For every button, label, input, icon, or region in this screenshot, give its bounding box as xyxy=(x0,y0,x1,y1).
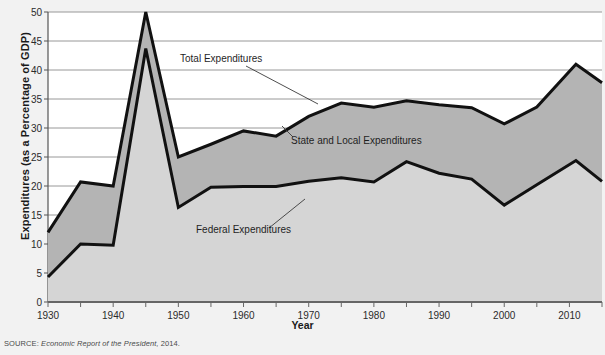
annotation-label-federal: Federal Expenditures xyxy=(196,224,291,235)
x-tick-label: 1990 xyxy=(428,310,451,321)
source-body: Economic Report of the President, xyxy=(41,339,159,348)
y-tick-label: 15 xyxy=(31,210,43,221)
source-label: SOURCE: xyxy=(4,339,39,348)
y-tick-label: 25 xyxy=(31,152,43,163)
x-axis: 193019401950196019701980199020002010 xyxy=(37,302,602,321)
y-tick-label: 0 xyxy=(36,297,42,308)
x-tick-label: 1930 xyxy=(37,310,60,321)
y-tick-label: 10 xyxy=(31,239,43,250)
annotation-label-state_local: State and Local Expenditures xyxy=(291,135,422,146)
x-tick-label: 2000 xyxy=(493,310,516,321)
y-tick-label: 5 xyxy=(36,268,42,279)
x-tick-label: 1960 xyxy=(232,310,255,321)
y-tick-label: 45 xyxy=(31,36,43,47)
y-tick-label: 35 xyxy=(31,94,43,105)
x-tick-label: 2010 xyxy=(558,310,581,321)
x-tick-label: 1950 xyxy=(167,310,190,321)
chart-figure: Expenditures (as a Percentage of GDP) Ye… xyxy=(0,0,605,355)
x-tick-label: 1940 xyxy=(102,310,125,321)
source-note: SOURCE: Economic Report of the President… xyxy=(4,339,180,348)
annotation-label-total: Total Expenditures xyxy=(180,53,262,64)
x-tick-label: 1980 xyxy=(363,310,386,321)
x-tick-label: 1970 xyxy=(298,310,321,321)
y-tick-label: 30 xyxy=(31,123,43,134)
y-tick-label: 20 xyxy=(31,181,43,192)
y-tick-label: 40 xyxy=(31,65,43,76)
y-tick-label: 50 xyxy=(31,7,43,18)
area-chart: 0510152025303540455019301940195019601970… xyxy=(0,0,605,355)
source-year: 2014. xyxy=(161,339,180,348)
